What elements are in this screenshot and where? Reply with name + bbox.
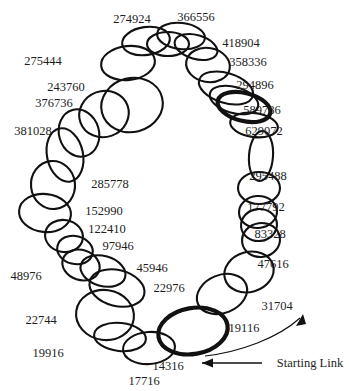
- chain-diagram: 2749243665564189043583362948965897866290…: [0, 0, 349, 391]
- link-label-48976: 48976: [10, 270, 41, 283]
- link-label-274924: 274924: [113, 13, 151, 26]
- link-label-31704: 31704: [261, 300, 292, 313]
- link-label-97946: 97946: [102, 240, 133, 253]
- starting-link-arrow: [202, 359, 262, 368]
- link-label-358336: 358336: [229, 56, 267, 69]
- link-label-22976: 22976: [153, 282, 184, 295]
- link-label-275444: 275444: [24, 55, 62, 68]
- chain-link-275444: [95, 71, 168, 138]
- link-label-122410: 122410: [88, 223, 126, 236]
- link-label-285778: 285778: [91, 178, 129, 191]
- starting-link-label: Starting Link: [277, 357, 343, 370]
- link-label-381028: 381028: [14, 125, 52, 138]
- chain-link-152990: [17, 191, 73, 234]
- chain-link-22744: [73, 286, 137, 344]
- link-label-366556: 366556: [177, 11, 215, 24]
- link-label-418904: 418904: [222, 37, 260, 50]
- chain-link-14316: [155, 302, 232, 359]
- chain-link-285778: [29, 159, 78, 211]
- chain-link-358336: [183, 44, 232, 85]
- link-label-14316: 14316: [152, 360, 183, 373]
- link-label-19916: 19916: [32, 347, 63, 360]
- link-label-629072: 629072: [245, 125, 283, 138]
- link-label-376736: 376736: [35, 97, 73, 110]
- chain-link-274924: [120, 24, 171, 58]
- link-label-294896: 294896: [236, 79, 274, 92]
- link-label-589786: 589786: [243, 104, 281, 117]
- links-group: [17, 21, 282, 366]
- link-label-295488: 295488: [249, 170, 287, 183]
- link-label-177792: 177792: [247, 201, 285, 214]
- link-label-17716: 17716: [128, 375, 159, 388]
- link-label-22744: 22744: [25, 314, 56, 327]
- link-label-47616: 47616: [257, 258, 288, 271]
- link-label-45946: 45946: [136, 262, 167, 275]
- link-label-243760: 243760: [47, 81, 85, 94]
- link-label-152990: 152990: [85, 205, 123, 218]
- link-label-19116: 19116: [229, 322, 260, 335]
- link-label-83328: 83328: [254, 228, 285, 241]
